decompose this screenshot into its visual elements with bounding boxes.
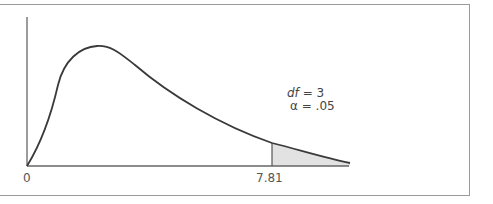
df-value: = 3 xyxy=(303,86,325,100)
chi-square-chart xyxy=(0,0,493,204)
df-annotation: df = 3 xyxy=(287,87,324,99)
alpha-annotation: α = .05 xyxy=(290,100,335,112)
x-tick-label-zero: 0 xyxy=(23,172,31,184)
df-label: df xyxy=(287,86,299,100)
x-tick-label-critical: 7.81 xyxy=(256,172,283,184)
